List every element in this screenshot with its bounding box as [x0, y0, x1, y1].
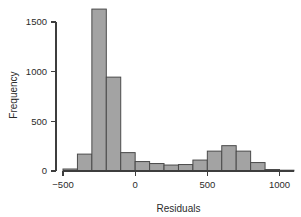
- y-tick-label: 1000: [26, 66, 47, 77]
- x-tick-label: 1000: [269, 179, 290, 190]
- histogram-bars: [63, 9, 294, 171]
- x-tick-label: −500: [52, 179, 73, 190]
- x-tick-label: 500: [199, 179, 215, 190]
- histogram-bar: [236, 151, 250, 171]
- histogram-bar: [150, 164, 164, 171]
- histogram-bar: [178, 165, 192, 171]
- histogram-bar: [251, 163, 265, 171]
- y-tick-label: 0: [42, 165, 47, 176]
- histogram-bar: [121, 153, 135, 171]
- x-axis-label: Residuals: [157, 203, 201, 214]
- histogram-bar: [106, 77, 120, 171]
- histogram-bar: [193, 160, 207, 171]
- histogram-bar: [135, 162, 149, 171]
- histogram-figure: −50005001000 050010001500 Residuals Freq…: [0, 0, 301, 217]
- histogram-bar: [77, 154, 91, 171]
- histogram-bar: [164, 165, 178, 171]
- y-tick-label: 1500: [26, 16, 47, 27]
- histogram-bar: [207, 151, 221, 171]
- histogram-bar: [222, 146, 236, 171]
- histogram-plot: −50005001000 050010001500 Residuals Freq…: [0, 0, 301, 217]
- x-axis-ticks: −50005001000: [52, 171, 290, 190]
- y-axis: 050010001500: [26, 16, 56, 176]
- y-axis-label: Frequency: [8, 71, 19, 118]
- histogram-bar: [92, 9, 106, 171]
- y-tick-label: 500: [31, 116, 47, 127]
- x-axis: −50005001000: [52, 171, 294, 190]
- y-axis-ticks: 050010001500: [26, 16, 56, 176]
- x-tick-label: 0: [133, 179, 138, 190]
